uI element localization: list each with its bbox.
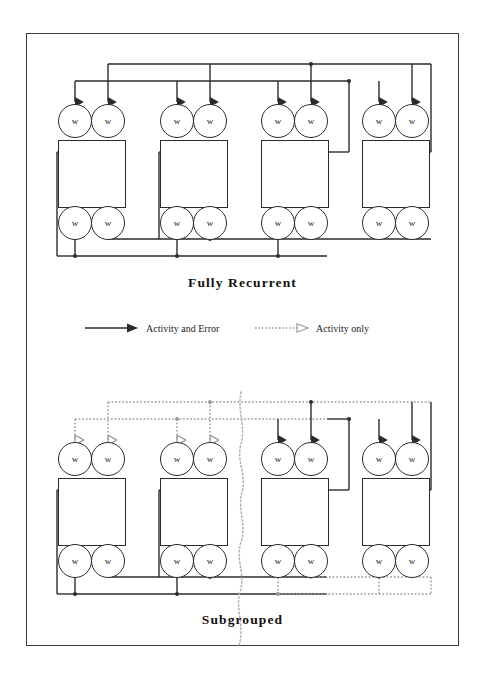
neuron-bottom-right: w <box>91 544 125 578</box>
neuron-bottom-left: w <box>261 206 295 240</box>
module-body <box>261 478 329 546</box>
neuron-label: w <box>308 454 315 463</box>
subgroup-divider <box>239 392 244 646</box>
neuron-label: w <box>376 116 383 125</box>
figure-frame: w w w w w w w w w w w w w w w w Fully Re… <box>26 33 459 646</box>
neuron-top-right: w <box>91 104 125 138</box>
neuron-label: w <box>376 454 383 463</box>
neuron-label: w <box>275 116 282 125</box>
neuron-bottom-right: w <box>193 544 227 578</box>
neuron-bottom-right: w <box>294 544 328 578</box>
neuron-label: w <box>72 116 79 125</box>
neuron-label: w <box>105 556 112 565</box>
neuron-top-right: w <box>193 104 227 138</box>
neuron-top-left: w <box>362 104 396 138</box>
neuron-top-right: w <box>193 442 227 476</box>
neuron-label: w <box>275 454 282 463</box>
neuron-bottom-left: w <box>58 206 92 240</box>
neuron-top-left: w <box>261 442 295 476</box>
neuron-label: w <box>275 218 282 227</box>
neuron-label: w <box>174 116 181 125</box>
neuron-label: w <box>174 218 181 227</box>
neuron-label: w <box>308 556 315 565</box>
neuron-label: w <box>376 556 383 565</box>
neuron-top-right: w <box>91 442 125 476</box>
neuron-label: w <box>409 454 416 463</box>
neuron-label: w <box>72 556 79 565</box>
neuron-label: w <box>174 556 181 565</box>
neuron-label: w <box>308 218 315 227</box>
module-body <box>58 478 126 546</box>
neuron-top-right: w <box>395 104 429 138</box>
neuron-bottom-left: w <box>58 544 92 578</box>
neuron-label: w <box>207 116 214 125</box>
neuron-label: w <box>376 218 383 227</box>
neuron-label: w <box>409 116 416 125</box>
neuron-bottom-right: w <box>294 206 328 240</box>
neuron-label: w <box>207 218 214 227</box>
neuron-bottom-right: w <box>395 206 429 240</box>
neuron-bottom-left: w <box>362 206 396 240</box>
neuron-label: w <box>105 454 112 463</box>
neuron-top-left: w <box>160 442 194 476</box>
neuron-label: w <box>72 454 79 463</box>
neuron-bottom-right: w <box>395 544 429 578</box>
neuron-top-right: w <box>395 442 429 476</box>
neuron-top-left: w <box>58 442 92 476</box>
neuron-bottom-left: w <box>160 544 194 578</box>
module-body <box>160 478 228 546</box>
neuron-top-left: w <box>261 104 295 138</box>
neuron-label: w <box>72 218 79 227</box>
neuron-top-right: w <box>294 104 328 138</box>
neuron-label: w <box>105 218 112 227</box>
neuron-bottom-left: w <box>160 206 194 240</box>
neuron-label: w <box>308 116 315 125</box>
neuron-label: w <box>409 218 416 227</box>
diagram-title-subgrouped: Subgrouped <box>27 612 458 628</box>
neuron-top-left: w <box>58 104 92 138</box>
neuron-bottom-right: w <box>91 206 125 240</box>
neuron-bottom-left: w <box>362 544 396 578</box>
neuron-bottom-right: w <box>193 206 227 240</box>
neuron-label: w <box>207 556 214 565</box>
module-body <box>362 478 430 546</box>
neuron-top-left: w <box>160 104 194 138</box>
neuron-top-right: w <box>294 442 328 476</box>
neuron-label: w <box>207 454 214 463</box>
neuron-label: w <box>275 556 282 565</box>
neuron-top-left: w <box>362 442 396 476</box>
neuron-label: w <box>105 116 112 125</box>
neuron-label: w <box>409 556 416 565</box>
neuron-label: w <box>174 454 181 463</box>
neuron-bottom-left: w <box>261 544 295 578</box>
